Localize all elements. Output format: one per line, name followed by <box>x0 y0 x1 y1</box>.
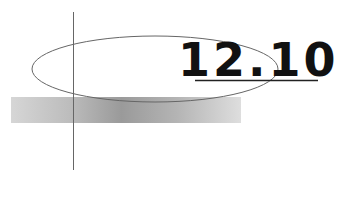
section-number: 12.10 <box>178 37 338 83</box>
